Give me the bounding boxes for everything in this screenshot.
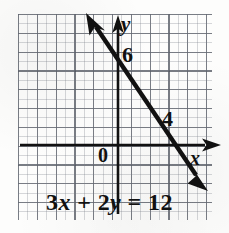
equation-term2-variable: y: [110, 189, 121, 215]
origin-label: 0: [98, 145, 108, 165]
line-segment: [96, 27, 196, 175]
equation-term1-variable: x: [58, 189, 70, 215]
line-arrowhead-upper-icon: [86, 13, 105, 36]
tick-label-y-6: 6: [122, 44, 133, 66]
y-axis-label: y: [121, 14, 130, 35]
graph-figure: y x 6 4 0 3x + 2y = 12: [0, 0, 229, 233]
equation-term2-coefficient: 2: [98, 189, 110, 215]
equation-constant: 12: [148, 189, 173, 215]
equation-caption: 3x + 2y = 12: [46, 190, 173, 214]
tick-label-x-4: 4: [162, 108, 173, 130]
equation-term1-coefficient: 3: [46, 189, 58, 215]
equation-operator: +: [77, 189, 91, 215]
x-axis-label: x: [190, 148, 200, 168]
equation-equals: =: [128, 189, 142, 215]
